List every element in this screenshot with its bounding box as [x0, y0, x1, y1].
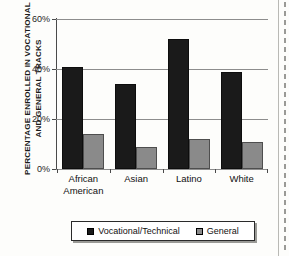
chart-legend: Vocational/Technical General	[71, 221, 255, 241]
bar-series-container	[57, 19, 268, 169]
x-label-latino: Latino	[163, 173, 216, 196]
gray-square-swatch-icon	[196, 228, 203, 235]
page-edge-line	[278, 0, 279, 256]
y-tick-label-20: 20%	[32, 114, 50, 124]
bar-vocational-white	[221, 72, 242, 170]
x-label-line-1: Latino	[163, 173, 216, 185]
bar-group-latino	[163, 19, 216, 169]
y-tick-40	[52, 69, 56, 70]
x-axis-category-labels: African American Asian Latino White	[57, 173, 268, 196]
bar-group-african-american	[57, 19, 110, 169]
legend-entry-vocational: Vocational/Technical	[87, 226, 180, 236]
plot-area: 60% 40% 20% 0%	[56, 19, 268, 169]
page-edge-dashed-line	[284, 2, 286, 254]
x-label-white: White	[215, 173, 268, 196]
bar-group-asian	[110, 19, 163, 169]
x-label-line-1: Asian	[110, 173, 163, 185]
chart-figure: PERCENTAGE ENROLLED IN VOCATIONAL AND GE…	[0, 0, 289, 256]
bar-general-white	[242, 142, 263, 170]
y-tick-label-60: 60%	[32, 14, 50, 24]
y-tick-0	[52, 169, 56, 170]
bar-vocational-latino	[168, 39, 189, 169]
legend-entry-general: General	[196, 226, 239, 236]
x-label-line-1: African	[57, 173, 110, 185]
y-axis-title-line-1: PERCENTAGE ENROLLED IN VOCATIONAL	[23, 0, 34, 184]
bar-vocational-asian	[115, 84, 136, 169]
black-square-swatch-icon	[87, 228, 94, 235]
y-axis-title-line-2: AND GENERAL TRACKS	[33, 0, 44, 184]
legend-label-general: General	[207, 226, 239, 236]
bar-group-white	[215, 19, 268, 169]
bar-general-asian	[136, 147, 157, 170]
x-label-line-1: White	[215, 173, 268, 185]
legend-label-vocational: Vocational/Technical	[98, 226, 180, 236]
y-tick-label-40: 40%	[32, 64, 50, 74]
x-label-asian: Asian	[110, 173, 163, 196]
y-tick-60	[52, 19, 56, 20]
y-tick-20	[52, 119, 56, 120]
y-axis-title: PERCENTAGE ENROLLED IN VOCATIONAL AND GE…	[23, 0, 44, 184]
bar-general-african-american	[83, 134, 104, 169]
x-label-line-2: American	[57, 185, 110, 197]
bar-general-latino	[189, 139, 210, 169]
y-tick-label-0: 0%	[37, 164, 50, 174]
x-label-african-american: African American	[57, 173, 110, 196]
bar-vocational-african-american	[62, 67, 83, 170]
